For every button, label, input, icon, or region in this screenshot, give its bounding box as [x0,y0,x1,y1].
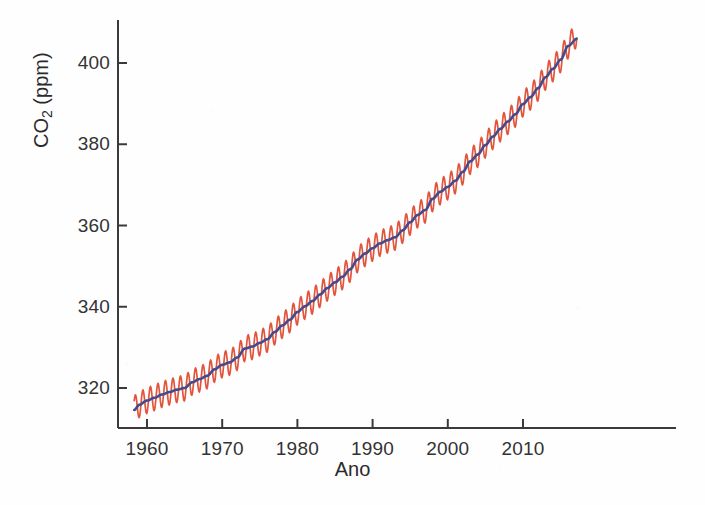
trend-co2-line [134,39,576,410]
x-axis-tick-label: 1980 [276,438,319,460]
x-axis-tick-label: 2010 [501,438,544,460]
x-axis-ticks [147,419,523,428]
x-axis-tick-label: 1990 [351,438,394,460]
y-axis-title-base: CO [30,118,52,148]
y-axis-tick-label: 320 [55,377,110,399]
chart-plot-area [0,0,705,505]
x-axis-tick-label: 2000 [426,438,469,460]
y-axis-title-subscript: 2 [39,110,55,118]
y-axis-tick-label: 340 [55,296,110,318]
y-axis-ticks [118,63,127,388]
monthly-co2-line [134,29,576,417]
y-axis-title: CO2 (ppm) [30,0,55,148]
y-axis-title-unit: (ppm) [30,52,52,110]
y-axis-tick-label: 360 [55,215,110,237]
x-axis-tick-label: 1970 [201,438,244,460]
y-axis-tick-label: 380 [55,133,110,155]
co2-keeling-curve-figure: 320340360380400 196019701980199020002010… [0,0,705,505]
y-axis-tick-label: 400 [55,52,110,74]
x-axis-tick-label: 1960 [125,438,168,460]
x-axis-title: Ano [0,458,705,481]
